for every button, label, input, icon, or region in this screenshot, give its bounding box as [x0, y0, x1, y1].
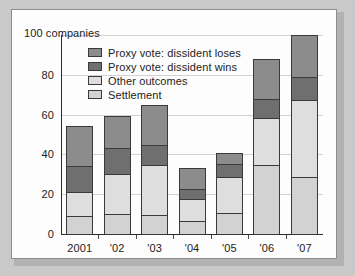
bar-segment	[141, 145, 168, 166]
legend-swatch-settlement	[88, 90, 102, 99]
bar-segment	[104, 214, 131, 235]
chart-legend: Proxy vote: dissident loses Proxy vote: …	[88, 46, 241, 102]
x-axis-tick	[248, 235, 249, 239]
x-axis-tick	[136, 235, 137, 239]
legend-label: Proxy vote: dissident wins	[108, 61, 237, 73]
x-axis-tick	[98, 235, 99, 239]
bar-segment	[66, 192, 93, 217]
chart-screenshot: 020406080100 companies 2001'02'03'04'05'…	[0, 0, 355, 276]
y-axis-tick-label: 60	[20, 109, 54, 121]
bar-segment	[253, 99, 280, 119]
bar-segment	[179, 199, 206, 222]
legend-item: Other outcomes	[88, 74, 241, 87]
bar-segment	[104, 148, 131, 175]
legend-label: Settlement	[108, 89, 162, 101]
bar-07	[291, 35, 318, 234]
bar-segment	[141, 105, 168, 147]
legend-swatch-dissident-wins	[88, 62, 102, 71]
plot-area: 020406080100 companies 2001'02'03'04'05'…	[12, 10, 336, 258]
bar-segment	[216, 177, 243, 214]
y-axis-tick-label: 0	[20, 228, 54, 240]
legend-label: Other outcomes	[108, 75, 188, 87]
legend-swatch-other-outcomes	[88, 76, 102, 85]
y-axis-tick-label: 40	[20, 148, 54, 160]
x-axis-tick	[173, 235, 174, 239]
bar-segment	[66, 216, 93, 235]
y-axis-tick-label: 20	[20, 188, 54, 200]
bar-segment	[179, 168, 206, 190]
bar-segment	[291, 77, 318, 101]
x-axis-tick-label: '05	[222, 242, 237, 254]
bar-segment	[291, 100, 318, 179]
y-axis-line	[61, 35, 62, 235]
bar-segment	[216, 164, 243, 178]
x-axis-tick-label: 2001	[67, 242, 92, 254]
bar-segment	[179, 189, 206, 200]
bar-segment	[253, 118, 280, 167]
bar-segment	[141, 165, 168, 216]
bar-segment	[141, 215, 168, 235]
x-axis-tick-label: '03	[147, 242, 162, 254]
bar-segment	[216, 213, 243, 235]
bar-segment	[291, 35, 318, 78]
bar-segment	[104, 116, 131, 150]
x-axis-tick-label: '07	[297, 242, 312, 254]
chart-panel: 020406080100 companies 2001'02'03'04'05'…	[11, 9, 337, 259]
bar-06	[253, 35, 280, 234]
legend-item: Settlement	[88, 88, 241, 101]
y-axis-tick-label: 80	[20, 69, 54, 81]
bar-segment	[179, 221, 206, 235]
x-axis-tick	[211, 235, 212, 239]
legend-item: Proxy vote: dissident wins	[88, 60, 241, 73]
bar-segment	[216, 153, 243, 165]
legend-item: Proxy vote: dissident loses	[88, 46, 241, 59]
bar-segment	[291, 177, 318, 235]
bar-segment	[66, 126, 93, 168]
x-axis-tick-label: '06	[260, 242, 275, 254]
legend-swatch-dissident-loses	[88, 48, 102, 57]
legend-label: Proxy vote: dissident loses	[108, 47, 241, 59]
x-axis-tick-label: '04	[185, 242, 200, 254]
bar-segment	[253, 165, 280, 235]
bar-segment	[66, 166, 93, 193]
x-axis-tick-label: '02	[110, 242, 125, 254]
bar-segment	[104, 174, 131, 215]
x-axis-tick	[286, 235, 287, 239]
bar-segment	[253, 59, 280, 100]
